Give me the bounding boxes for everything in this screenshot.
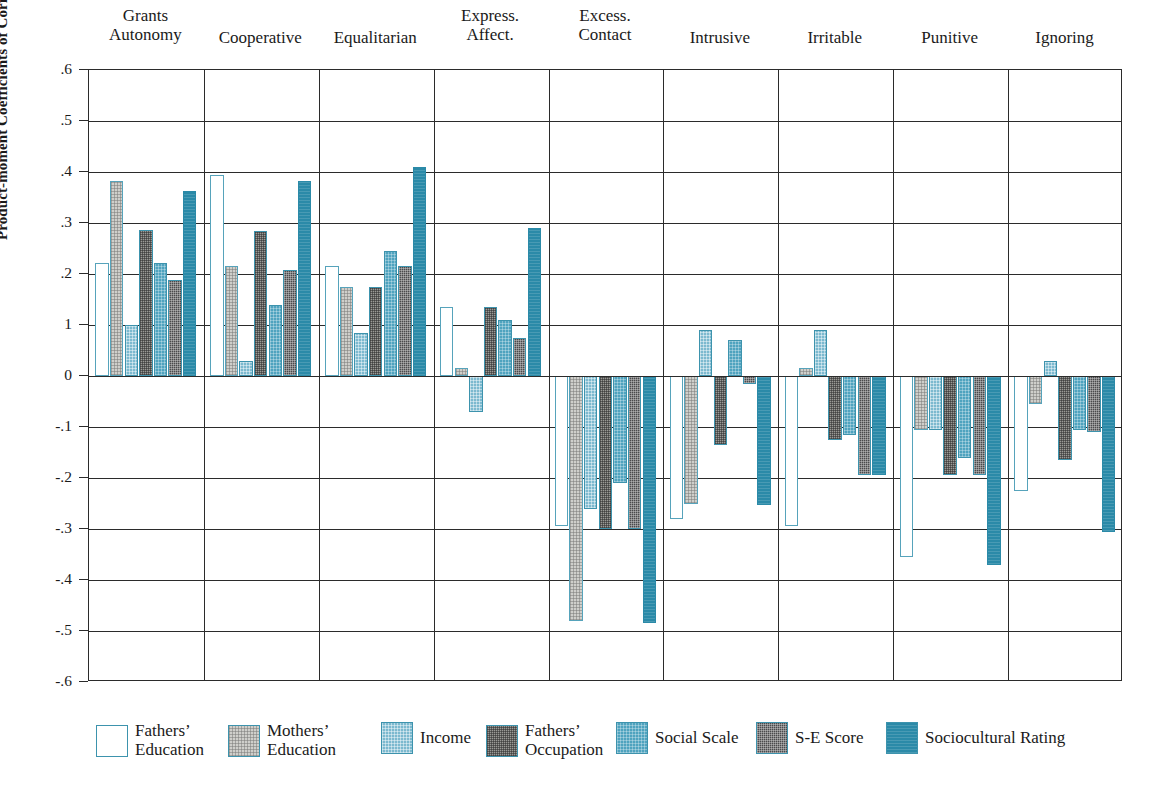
group-divider [1008, 70, 1009, 680]
legend-label-social-scale: Social Scale [655, 729, 739, 748]
bar-social-scale [1073, 376, 1086, 430]
y-tick-label: -.1 [28, 418, 72, 434]
y-tick-mark [79, 681, 88, 682]
y-tick-label: .6 [28, 61, 72, 77]
y-tick-label: -.2 [28, 469, 72, 485]
gridline [89, 172, 1121, 173]
bar-sociocultural-rating [987, 376, 1000, 565]
legend-swatch-social-scale [616, 722, 648, 754]
bar-social-scale [498, 320, 511, 376]
bar-social-scale [384, 251, 397, 376]
gridline [89, 580, 1121, 581]
bar-fathers-education [210, 175, 223, 376]
legend-swatch-sociocultural-rating [886, 722, 918, 754]
y-tick-mark [79, 528, 88, 529]
bar-se-score [168, 280, 181, 376]
gridline [89, 121, 1121, 122]
bar-se-score [283, 270, 296, 376]
bar-fathers-occupation [828, 376, 841, 440]
bar-fathers-occupation [139, 230, 152, 376]
y-tick-label: -.5 [28, 622, 72, 638]
legend-label-fathers-education: Fathers’ Education [135, 722, 204, 759]
legend-item-se-score: S-E Score [756, 722, 863, 754]
y-axis-title: Product-moment Coefficients of Correlati… [0, 0, 11, 240]
gridline [89, 274, 1121, 275]
y-tick-mark [79, 426, 88, 427]
legend-label-fathers-occupation: Fathers’ Occupation [525, 722, 603, 759]
bar-social-scale [269, 305, 282, 376]
bar-fathers-occupation [714, 376, 727, 445]
legend-item-social-scale: Social Scale [616, 722, 739, 754]
bar-se-score [628, 376, 641, 529]
legend-item-fathers-education: Fathers’ Education [96, 722, 204, 759]
bar-income [584, 376, 597, 509]
bar-se-score [858, 376, 871, 475]
group-divider [434, 70, 435, 680]
bar-income [814, 330, 827, 376]
bar-sociocultural-rating [183, 191, 196, 376]
bar-sociocultural-rating [643, 376, 656, 623]
bar-fathers-education [785, 376, 798, 526]
gridline [89, 325, 1121, 326]
legend: Fathers’ EducationMothers’ EducationInco… [96, 722, 1136, 770]
bar-income [354, 333, 367, 376]
y-tick-mark [79, 222, 88, 223]
y-tick-label: .4 [28, 163, 72, 179]
bar-fathers-education [670, 376, 683, 519]
group-divider [319, 70, 320, 680]
bar-fathers-education [325, 266, 338, 376]
bar-mothers-education [914, 376, 927, 430]
bar-income [125, 325, 138, 376]
bar-fathers-occupation [1058, 376, 1071, 460]
bar-fathers-occupation [254, 231, 267, 376]
bar-sociocultural-rating [298, 181, 311, 376]
y-tick-mark [79, 477, 88, 478]
bar-fathers-occupation [484, 307, 497, 376]
y-tick-mark [79, 630, 88, 631]
bar-sociocultural-rating [757, 376, 770, 505]
bar-fathers-occupation [599, 376, 612, 529]
y-tick-mark [79, 273, 88, 274]
legend-item-fathers-occupation: Fathers’ Occupation [486, 722, 603, 759]
gridline [89, 223, 1121, 224]
bar-fathers-education [555, 376, 568, 526]
legend-swatch-se-score [756, 722, 788, 754]
group-divider [663, 70, 664, 680]
group-divider [893, 70, 894, 680]
bar-social-scale [728, 340, 741, 376]
bar-sociocultural-rating [1102, 376, 1115, 532]
legend-swatch-fathers-occupation [486, 725, 518, 757]
group-divider [778, 70, 779, 680]
legend-item-income: Income [381, 722, 471, 754]
bar-se-score [743, 376, 756, 384]
bar-income [1044, 361, 1057, 376]
bar-mothers-education [799, 368, 812, 376]
y-tick-mark [79, 579, 88, 580]
bar-social-scale [613, 376, 626, 483]
y-tick-mark [79, 324, 88, 325]
legend-swatch-mothers-education [228, 725, 260, 757]
y-tick-mark [79, 375, 88, 376]
group-divider [204, 70, 205, 680]
y-tick-label: .3 [28, 214, 72, 230]
legend-item-mothers-education: Mothers’ Education [228, 722, 336, 759]
zero-line [89, 376, 1121, 377]
bar-mothers-education [340, 287, 353, 376]
group-label-ignoring: Ignoring [997, 28, 1132, 47]
y-tick-label: -.3 [28, 520, 72, 536]
bar-fathers-education [440, 307, 453, 376]
y-tick-label: 1 [28, 316, 72, 332]
bar-mothers-education [569, 376, 582, 621]
legend-label-mothers-education: Mothers’ Education [267, 722, 336, 759]
legend-label-income: Income [420, 729, 471, 748]
legend-swatch-fathers-education [96, 725, 128, 757]
bar-se-score [513, 338, 526, 376]
legend-swatch-income [381, 722, 413, 754]
bar-fathers-education [95, 263, 108, 376]
y-tick-mark [79, 69, 88, 70]
bar-se-score [398, 266, 411, 376]
bar-sociocultural-rating [413, 167, 426, 376]
bar-income [929, 376, 942, 430]
y-tick-mark [79, 120, 88, 121]
legend-label-se-score: S-E Score [795, 729, 863, 748]
